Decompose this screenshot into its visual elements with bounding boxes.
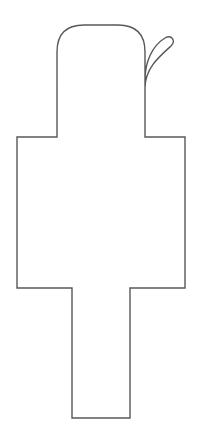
drawing-canvas — [0, 0, 202, 439]
pushpin-outline-path — [17, 25, 185, 418]
shape-outline-svg — [0, 0, 202, 439]
